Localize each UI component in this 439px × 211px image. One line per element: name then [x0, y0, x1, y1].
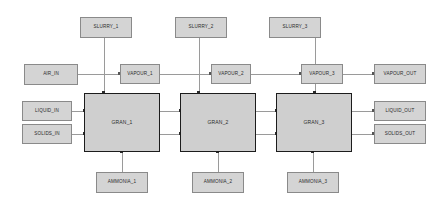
node-liquid-in[interactable]: LIQUID_IN	[22, 101, 72, 121]
connector-gran1-gran2-liquid	[160, 111, 181, 112]
connector-gran3-solids-out	[352, 134, 374, 135]
connector-ammonia3-gran3	[313, 152, 314, 172]
node-solids-in[interactable]: SOLIDS_IN	[22, 124, 72, 144]
connector-slurry2-gran2	[199, 38, 200, 93]
node-slurry2[interactable]: SLURRY_2	[175, 17, 227, 38]
node-vapour-out[interactable]: VAPOUR_OUT	[374, 64, 426, 84]
connector-gran2-gran3-solids	[256, 134, 277, 135]
connector-gran2-gran3-liquid	[256, 111, 277, 112]
connector-gran3-liquid-out	[352, 111, 374, 112]
node-ammonia1[interactable]: AMMONIA_1	[96, 172, 148, 193]
connector-vapour2-vapour3	[251, 74, 301, 75]
flowsheet-canvas: SLURRY_1 SLURRY_2 SLURRY_3 AIR_IN LIQUID…	[0, 0, 439, 211]
node-slurry3[interactable]: SLURRY_3	[269, 17, 321, 38]
connector-gran1-gran2-solids	[160, 134, 181, 135]
node-liquid-out[interactable]: LIQUID_OUT	[374, 101, 426, 121]
connector-vapour1-vapour2	[159, 74, 211, 75]
node-vapour3[interactable]: VAPOUR_3	[301, 64, 343, 84]
node-ammonia2[interactable]: AMMONIA_2	[192, 172, 244, 193]
node-vapour1[interactable]: VAPOUR_1	[120, 64, 160, 84]
node-solids-out[interactable]: SOLIDS_OUT	[374, 124, 426, 144]
node-ammonia3[interactable]: AMMONIA_3	[287, 172, 339, 193]
node-slurry1[interactable]: SLURRY_1	[80, 17, 132, 38]
node-vapour2[interactable]: VAPOUR_2	[211, 64, 251, 84]
unit-gran3[interactable]: GRAN_3	[276, 93, 352, 152]
connector-vapour3-vapour-out	[342, 74, 374, 75]
unit-gran1[interactable]: GRAN_1	[84, 93, 160, 152]
unit-gran2[interactable]: GRAN_2	[180, 93, 256, 152]
connector-air-in-vapour1	[78, 74, 120, 75]
connector-slurry1-gran1	[104, 38, 105, 93]
node-air-in[interactable]: AIR_IN	[24, 64, 78, 85]
connector-ammonia1-gran1	[122, 152, 123, 172]
connector-ammonia2-gran2	[218, 152, 219, 172]
